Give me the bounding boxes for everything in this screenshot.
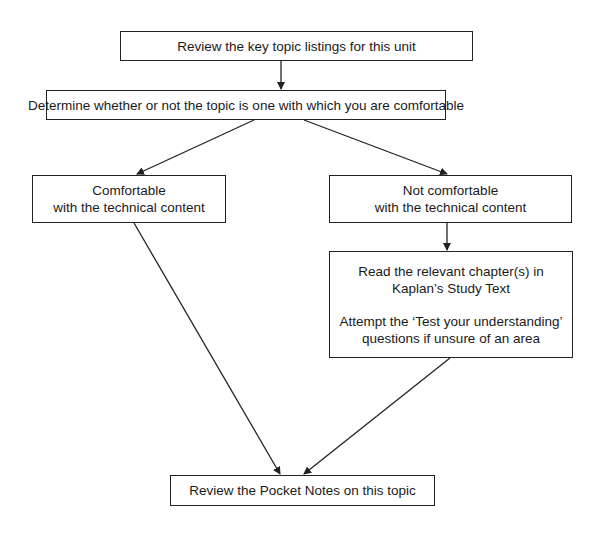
node-label: Review the Pocket Notes on this topic [189, 482, 416, 499]
arrow-read-to-pocket-notes [304, 358, 450, 474]
node-label-line-2: with the technical content [375, 199, 527, 216]
node-review-key-topics: Review the key topic listings for this u… [120, 31, 473, 61]
node-comfortable: Comfortable with the technical content [32, 175, 226, 223]
node-label-line-3: Attempt the ‘Test your understanding’ [340, 313, 563, 330]
node-label: Review the key topic listings for this u… [177, 38, 416, 55]
node-label: Determine whether or not the topic is on… [28, 97, 464, 114]
arrow-comfortable-to-pocket-notes [134, 223, 280, 474]
node-label-line-2: with the technical content [53, 199, 205, 216]
node-not-comfortable: Not comfortable with the technical conte… [329, 175, 572, 223]
node-label-line-1: Not comfortable [403, 182, 498, 199]
flowchart-canvas: Review the key topic listings for this u… [0, 0, 606, 539]
node-label-line-2: Kaplan’s Study Text [392, 280, 510, 297]
node-label-line-1: Read the relevant chapter(s) in [358, 263, 543, 280]
node-label-line-4: questions if unsure of an area [362, 330, 540, 347]
node-review-pocket-notes: Review the Pocket Notes on this topic [170, 475, 435, 506]
node-determine-comfort: Determine whether or not the topic is on… [46, 90, 446, 120]
node-read-study-text: Read the relevant chapter(s) in Kaplan’s… [329, 251, 573, 358]
arrow-determine-to-not-comfortable [304, 120, 447, 174]
arrow-determine-to-comfortable [137, 120, 254, 174]
node-label-line-1: Comfortable [92, 182, 166, 199]
